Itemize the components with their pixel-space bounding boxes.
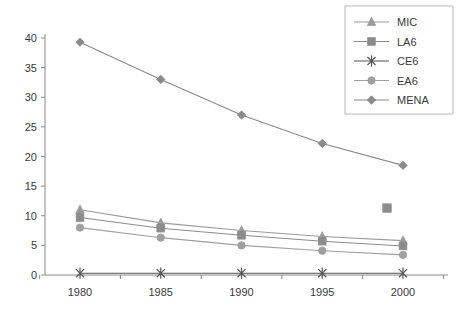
circle-marker <box>399 251 406 258</box>
y-tick-label: 15 <box>25 180 37 192</box>
chart-container: 051015202530354019801985199019952000MICL… <box>0 0 459 311</box>
circle-marker <box>319 247 326 254</box>
y-tick-label: 40 <box>25 32 37 44</box>
x-tick-label: 1985 <box>149 286 173 298</box>
legend-label-mic: MIC <box>397 16 417 28</box>
legend-label-ea6: EA6 <box>397 75 418 87</box>
y-tick-label: 25 <box>25 121 37 133</box>
series-ce6 <box>76 268 407 279</box>
diamond-marker <box>399 161 407 169</box>
y-tick-label: 0 <box>31 269 37 281</box>
circle-marker <box>238 242 245 249</box>
marker-square <box>368 38 376 46</box>
data-point-mena-1980 <box>76 38 84 46</box>
y-tick-label: 5 <box>31 239 37 251</box>
x-tick-label: 1980 <box>68 286 92 298</box>
data-point-ea6-1990 <box>238 242 245 249</box>
square-marker <box>383 204 391 212</box>
data-point-ea6-1985 <box>157 234 164 241</box>
circle-marker <box>76 224 83 231</box>
square-marker <box>368 38 376 46</box>
y-tick-label: 30 <box>25 91 37 103</box>
marker-circle <box>368 77 375 84</box>
y-tick-label: 35 <box>25 62 37 74</box>
data-point-la6-1990 <box>238 232 246 240</box>
stray-marker-la6 <box>383 204 391 212</box>
legend-label-ce6: CE6 <box>397 55 418 67</box>
x-tick-label: 1995 <box>310 286 334 298</box>
triangle-marker <box>76 205 84 213</box>
legend: MICLA6CE6EA6MENA <box>345 6 453 114</box>
y-axis-ticks: 0510152025303540 <box>25 32 45 281</box>
y-tick-label: 20 <box>25 151 37 163</box>
legend-label-la6: LA6 <box>397 36 417 48</box>
square-marker <box>399 242 407 250</box>
data-point-mena-2000 <box>399 161 407 169</box>
y-tick-label: 10 <box>25 210 37 222</box>
diamond-marker <box>237 111 245 119</box>
data-point-ea6-1995 <box>319 247 326 254</box>
circle-marker <box>157 234 164 241</box>
square-marker <box>318 237 326 245</box>
data-point-mena-1990 <box>237 111 245 119</box>
square-marker <box>238 232 246 240</box>
diamond-marker <box>157 75 165 83</box>
x-tick-label: 2000 <box>391 286 415 298</box>
circle-marker <box>368 77 375 84</box>
line-chart: 051015202530354019801985199019952000MICL… <box>0 0 459 311</box>
diamond-marker <box>76 38 84 46</box>
data-point-ea6-1980 <box>76 224 83 231</box>
data-point-mena-1985 <box>157 75 165 83</box>
data-point-la6-1995 <box>318 237 326 245</box>
data-point-la6-1985 <box>157 224 165 232</box>
diamond-marker <box>318 139 326 147</box>
legend-label-mena: MENA <box>397 94 429 106</box>
data-point-la6-2000 <box>399 242 407 250</box>
data-point-mic-1980 <box>76 205 84 213</box>
x-tick-label: 1990 <box>229 286 253 298</box>
square-marker <box>76 214 84 222</box>
square-marker <box>157 224 165 232</box>
data-point-la6-1980 <box>76 214 84 222</box>
data-point-ea6-2000 <box>399 251 406 258</box>
data-point-mena-1995 <box>318 139 326 147</box>
